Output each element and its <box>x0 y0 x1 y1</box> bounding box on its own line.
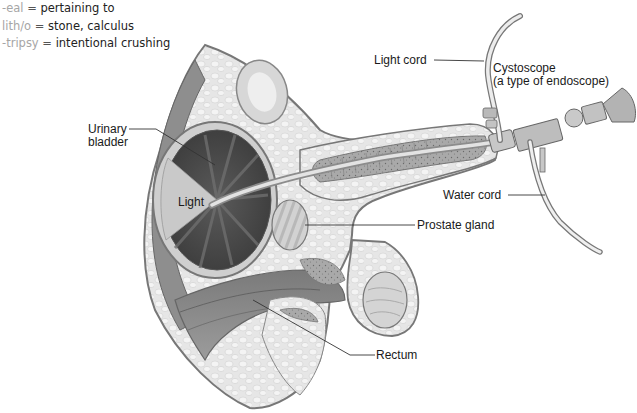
label-cystoscope: Cystoscope (a type of endoscope) <box>493 62 609 88</box>
label-light-cord: Light cord <box>374 54 427 67</box>
prostate-gland-shape <box>272 200 308 250</box>
label-light: Light <box>178 196 204 209</box>
label-prostate-gland: Prostate gland <box>417 219 494 232</box>
label-water-cord: Water cord <box>443 189 501 202</box>
cystoscope-device <box>488 88 635 172</box>
label-urinary-bladder: Urinary bladder <box>88 123 128 149</box>
label-urinary-bladder-line2: bladder <box>88 136 128 149</box>
label-cystoscope-line2: (a type of endoscope) <box>493 75 609 88</box>
label-rectum: Rectum <box>376 349 417 362</box>
